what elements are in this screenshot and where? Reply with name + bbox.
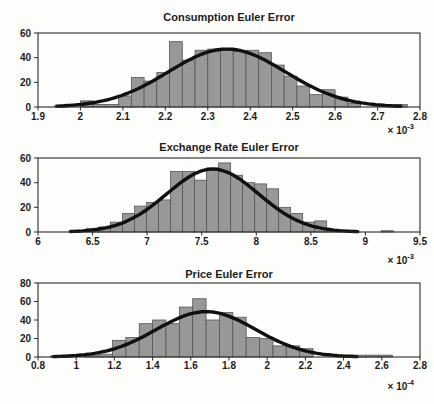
y-tick-label: 20 <box>20 202 32 213</box>
x-tick-label: 2.4 <box>243 111 257 122</box>
x-tick-label: 1 <box>73 360 79 371</box>
x-axis-exponent-label: × 10-4 <box>388 378 415 392</box>
x-tick-label: 8.5 <box>304 236 318 247</box>
y-tick-label: 80 <box>20 278 32 289</box>
x-tick-label: 8 <box>254 236 260 247</box>
panel-exchange-rate-euler-error: Exchange Rate Euler Error 66.577.588.599… <box>0 140 434 268</box>
x-axis-exponent-label: × 10-3 <box>388 122 414 136</box>
x-tick-label: 2.8 <box>413 360 427 371</box>
plot-area: 0.811.21.41.61.822.22.42.62.8020406080 <box>20 278 428 372</box>
y-tick-label: 0 <box>25 227 31 238</box>
histogram-bar <box>221 50 234 107</box>
histogram-bar <box>297 86 310 107</box>
y-tick-label: 40 <box>20 177 32 188</box>
histogram-bar <box>260 339 273 358</box>
x-tick-label: 7.5 <box>195 236 209 247</box>
x-tick-label: 6.5 <box>86 236 100 247</box>
x-tick-label: 2.6 <box>375 360 389 371</box>
histogram-bar <box>231 175 243 232</box>
histogram-bar <box>208 49 221 107</box>
x-tick-label: 1.8 <box>222 360 236 371</box>
x-tick-label: 1.6 <box>184 360 198 371</box>
x-tick-label: 9.5 <box>413 236 427 247</box>
x-tick-label: 2.7 <box>371 111 385 122</box>
histogram-bar <box>246 50 259 107</box>
y-tick-label: 0 <box>25 102 31 113</box>
histogram-bar <box>284 76 297 107</box>
histogram-bar <box>195 180 207 232</box>
x-tick-label: 2.6 <box>328 111 342 122</box>
histogram-bar <box>159 200 171 232</box>
y-tick-label: 60 <box>20 296 32 307</box>
chart-title: Consumption Euler Error <box>163 11 295 23</box>
x-tick-label: 1.2 <box>107 360 121 371</box>
panel-price-euler-error: Price Euler Error 0.811.21.41.61.822.22.… <box>0 268 434 404</box>
x-tick-label: 2.4 <box>337 360 351 371</box>
y-tick-label: 0 <box>25 352 31 363</box>
x-tick-label: 2.5 <box>286 111 300 122</box>
x-tick-label: 2.2 <box>158 111 172 122</box>
histogram-bar <box>273 346 286 357</box>
histogram-bar <box>233 52 246 108</box>
euler-error-figure: Consumption Euler Error 1.922.12.22.32.4… <box>0 0 434 404</box>
x-tick-label: 7 <box>144 236 150 247</box>
x-tick-label: 2.8 <box>413 111 427 122</box>
chart-title: Price Euler Error <box>185 268 273 280</box>
x-tick-label: 2 <box>264 360 270 371</box>
panel-consumption-euler-error: Consumption Euler Error 1.922.12.22.32.4… <box>0 0 434 140</box>
y-tick-label: 40 <box>20 52 32 63</box>
y-tick-label: 60 <box>20 28 32 39</box>
histogram-bar <box>310 95 323 107</box>
x-tick-label: 2.3 <box>201 111 215 122</box>
plot-area: 1.922.12.22.32.42.52.62.72.80204060 <box>20 28 428 123</box>
x-tick-label: 2.2 <box>298 360 312 371</box>
x-tick-label: 1.4 <box>146 360 160 371</box>
histogram-bar <box>166 324 179 357</box>
histogram-bar <box>206 320 219 357</box>
histogram-bar <box>195 50 208 107</box>
x-tick-label: 2.1 <box>116 111 130 122</box>
y-tick-label: 20 <box>20 77 32 88</box>
x-axis-exponent-label: × 10-3 <box>388 252 414 266</box>
x-tick-label: 1.9 <box>31 111 45 122</box>
x-tick-label: 6 <box>35 236 41 247</box>
y-tick-label: 20 <box>20 333 32 344</box>
x-tick-label: 2 <box>78 111 84 122</box>
y-tick-label: 40 <box>20 315 32 326</box>
histogram-bar <box>246 338 259 357</box>
histogram-bar <box>193 299 206 357</box>
chart-title: Exchange Rate Euler Error <box>159 141 299 153</box>
y-tick-label: 60 <box>20 153 32 164</box>
histogram-bar <box>207 168 219 232</box>
plot-area: 66.577.588.599.50204060 <box>20 153 428 248</box>
histogram-bar <box>170 42 183 107</box>
histogram-bar <box>219 313 232 357</box>
histogram-bar <box>139 324 152 357</box>
histogram-bar <box>182 60 195 107</box>
x-tick-label: 0.8 <box>31 360 45 371</box>
x-tick-label: 9 <box>363 236 369 247</box>
